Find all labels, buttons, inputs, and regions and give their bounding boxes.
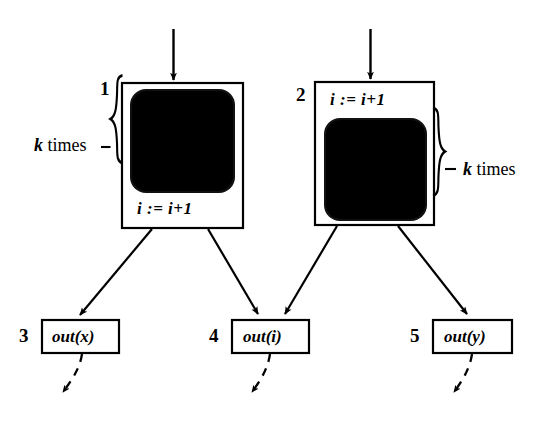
edge-node-1-to-node-4 xyxy=(208,229,258,314)
edge-node-2-to-node-5 xyxy=(398,226,467,314)
node-1-number: 1 xyxy=(100,79,110,98)
diagram-canvas: 1 2 i := i+1 i := i+1 k times k times 3 … xyxy=(0,0,558,438)
node-1-assignment: i := i+1 xyxy=(137,200,192,217)
k-times-label-left: k times xyxy=(34,136,87,154)
node-2-blob xyxy=(324,118,427,221)
node-4-number: 4 xyxy=(209,326,219,345)
edge-node-2-to-node-4 xyxy=(285,226,337,314)
node-3-label: out(x) xyxy=(52,328,95,345)
diagram-vector-layer xyxy=(0,0,558,438)
k-symbol-left: k xyxy=(34,135,43,155)
node-2-assignment: i := i+1 xyxy=(330,91,385,108)
node-5-number: 5 xyxy=(410,326,420,345)
k-times-label-right: k times xyxy=(463,160,516,178)
node-4-label: out(i) xyxy=(243,328,282,345)
times-word-left: times xyxy=(43,135,87,155)
brace-right-k-times xyxy=(433,108,456,196)
node-1-blob xyxy=(130,89,235,193)
k-symbol-right: k xyxy=(463,159,472,179)
node-5-label: out(y) xyxy=(444,328,486,345)
edge-node-1-to-node-3 xyxy=(80,229,152,315)
edge-node-5-continuation xyxy=(454,354,472,392)
edge-node-3-continuation xyxy=(63,354,82,392)
edge-node-4-continuation xyxy=(252,354,270,392)
node-3-number: 3 xyxy=(19,326,29,345)
node-2-number: 2 xyxy=(296,85,306,104)
times-word-right: times xyxy=(472,159,516,179)
